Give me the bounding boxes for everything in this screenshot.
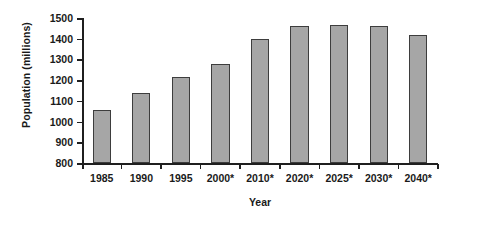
x-tick-label: 2000*	[207, 172, 234, 184]
x-tick-label: 1990	[130, 172, 153, 184]
y-tick-mark	[77, 39, 82, 41]
x-tick-mark	[200, 164, 202, 169]
x-tick-label: 2030*	[365, 172, 392, 184]
y-axis-line	[82, 18, 84, 164]
bar	[132, 93, 150, 163]
bar	[290, 26, 308, 163]
y-tick-mark	[77, 101, 82, 103]
x-tick-mark	[279, 164, 281, 169]
x-tick-mark	[358, 164, 360, 169]
x-tick-label: 1985	[90, 172, 113, 184]
y-tick-mark	[77, 59, 82, 61]
y-tick-mark	[77, 142, 82, 144]
bar	[330, 25, 348, 163]
x-tick-label: 1995	[169, 172, 192, 184]
bar-chart: Population (millions) 800900100011001200…	[0, 0, 480, 226]
x-tick-mark	[121, 164, 123, 169]
bar	[211, 64, 229, 163]
bar	[172, 77, 190, 163]
x-tick-label: 2020*	[286, 172, 313, 184]
x-tick-mark	[437, 164, 439, 169]
y-tick-mark	[77, 18, 82, 20]
x-tick-label: 2025*	[325, 172, 352, 184]
y-tick-label: 800	[33, 157, 73, 169]
y-tick-label: 1300	[33, 53, 73, 65]
bar	[93, 110, 111, 163]
x-tick-mark	[319, 164, 321, 169]
y-tick-label: 1000	[33, 116, 73, 128]
x-tick-mark	[160, 164, 162, 169]
y-tick-label: 1500	[33, 12, 73, 24]
bar	[370, 26, 388, 163]
bar	[251, 39, 269, 163]
plot-area: 800900100011001200130014001500 198519901…	[82, 18, 438, 164]
x-axis-line	[82, 163, 438, 165]
x-axis-title: Year	[82, 196, 438, 208]
x-tick-mark	[82, 164, 84, 169]
bar	[409, 35, 427, 163]
y-tick-label: 1100	[33, 95, 73, 107]
x-tick-mark	[239, 164, 241, 169]
y-tick-label: 900	[33, 136, 73, 148]
y-tick-mark	[77, 80, 82, 82]
x-tick-label: 2040*	[404, 172, 431, 184]
y-tick-label: 1200	[33, 74, 73, 86]
x-tick-mark	[398, 164, 400, 169]
x-tick-label: 2010*	[246, 172, 273, 184]
y-tick-label: 1400	[33, 33, 73, 45]
y-axis-title: Population (millions)	[20, 0, 34, 188]
y-tick-mark	[77, 122, 82, 124]
